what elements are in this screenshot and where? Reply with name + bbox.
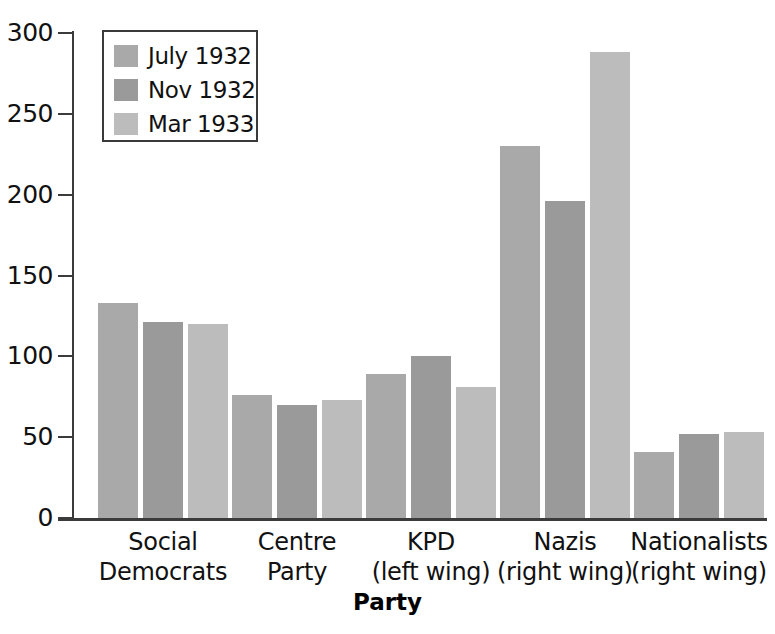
bar [277, 405, 317, 518]
bar [366, 374, 406, 518]
legend-swatch [114, 79, 138, 101]
y-axis-tick-label: 100 [0, 343, 53, 368]
x-axis-category-label: Nationalists(right wing) [589, 527, 775, 587]
x-axis-title: Party [0, 589, 775, 615]
bar [232, 395, 272, 518]
bar [679, 434, 719, 518]
bar [322, 400, 362, 518]
bar [590, 52, 630, 518]
bar [98, 303, 138, 518]
legend: July 1932Nov 1932Mar 1933 [102, 30, 258, 142]
category-label-line-1: Nationalists [630, 528, 768, 556]
x-axis-line [58, 518, 767, 521]
y-axis-tick-label: 0 [0, 505, 53, 530]
bar [634, 452, 674, 518]
legend-swatch [114, 45, 138, 67]
y-axis-tick-label: 300 [0, 20, 53, 45]
legend-item: Mar 1933 [114, 108, 256, 140]
legend-item: Nov 1932 [114, 74, 256, 106]
y-axis-tick [58, 436, 73, 438]
y-axis-tick-label: 50 [0, 424, 53, 449]
y-axis-tick-label: 150 [0, 263, 53, 288]
y-axis-tick-label: 250 [0, 101, 53, 126]
legend-item: July 1932 [114, 40, 256, 72]
bar [143, 322, 183, 518]
bar [724, 432, 764, 518]
legend-swatch [114, 113, 138, 135]
bar-chart: 050100150200250300 SocialDemocratsCentre… [0, 0, 775, 634]
category-label-line-1: KPD [407, 528, 455, 556]
y-axis-tick [58, 355, 73, 357]
y-axis-tick [58, 275, 73, 277]
bar [500, 146, 540, 518]
y-axis-tick [58, 113, 73, 115]
y-axis-tick [58, 194, 73, 196]
bar-group [366, 33, 496, 518]
bar [411, 356, 451, 518]
legend-label: July 1932 [148, 45, 252, 68]
legend-label: Nov 1932 [148, 79, 256, 102]
bar-group [500, 33, 630, 518]
bar [545, 201, 585, 518]
category-label-line-1: Nazis [534, 528, 597, 556]
y-axis-tick-label: 200 [0, 182, 53, 207]
legend-label: Mar 1933 [148, 113, 254, 136]
bar-group [634, 33, 764, 518]
bar [188, 324, 228, 518]
category-label-line-2: (right wing) [589, 557, 775, 587]
bar [456, 387, 496, 518]
y-axis-tick [58, 32, 73, 34]
